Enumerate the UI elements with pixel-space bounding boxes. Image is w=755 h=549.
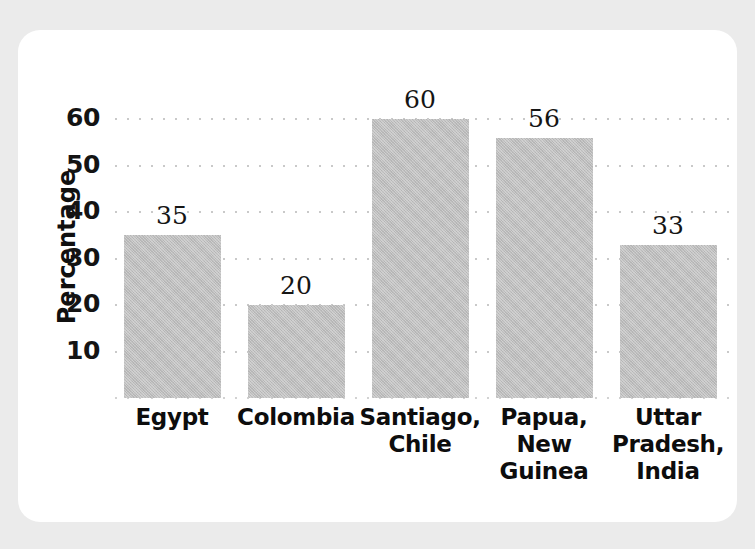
value-label-papua-new-guinea: 56 — [496, 104, 593, 133]
bar-colombia[interactable] — [248, 305, 345, 398]
bar-uttar-pradesh-india[interactable] — [620, 245, 717, 398]
value-label-uttar-pradesh-india: 33 — [620, 211, 717, 240]
bar-egypt[interactable] — [124, 235, 221, 398]
x-tick-label-colombia: Colombia — [232, 404, 360, 431]
x-tick-label-santiago-chile: Santiago,Chile — [356, 404, 484, 458]
x-tick-label-line: Egypt — [108, 404, 236, 431]
x-tick-label-line: Colombia — [232, 404, 360, 431]
x-tick-label-line: Uttar — [604, 404, 732, 431]
bar-chart: Percentage 60 50 40 30 20 10 35 20 60 56 — [0, 0, 755, 549]
bar-santiago-chile[interactable] — [372, 119, 469, 398]
x-tick-label-line: Guinea — [480, 458, 608, 485]
value-label-egypt: 35 — [124, 201, 221, 230]
x-tick-label-line: New — [480, 431, 608, 458]
bar-papua-new-guinea[interactable] — [496, 138, 593, 398]
value-label-colombia: 20 — [248, 271, 345, 300]
x-tick-label-line: Chile — [356, 431, 484, 458]
x-tick-label-line: India — [604, 458, 732, 485]
x-tick-label-papua-new-guinea: Papua,NewGuinea — [480, 404, 608, 485]
x-tick-label-line: Pradesh, — [604, 431, 732, 458]
y-tick-label-50: 50 — [52, 150, 100, 179]
y-tick-label-60: 60 — [52, 103, 100, 132]
x-tick-label-line: Santiago, — [356, 404, 484, 431]
y-tick-label-30: 30 — [52, 243, 100, 272]
y-tick-label-20: 20 — [52, 289, 100, 318]
value-label-santiago-chile: 60 — [372, 85, 469, 114]
plot-area — [110, 96, 730, 398]
y-tick-label-40: 40 — [52, 196, 100, 225]
page-background: Percentage 60 50 40 30 20 10 35 20 60 56 — [0, 0, 755, 549]
x-tick-label-egypt: Egypt — [108, 404, 236, 431]
y-tick-label-10: 10 — [52, 336, 100, 365]
x-tick-label-line: Papua, — [480, 404, 608, 431]
x-tick-label-uttar-pradesh-india: UttarPradesh,India — [604, 404, 732, 485]
